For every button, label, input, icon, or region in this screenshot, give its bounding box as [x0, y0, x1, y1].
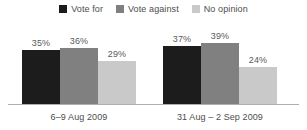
bar-group1-no-opinion	[98, 61, 136, 104]
bar-group2-no-opinion	[239, 67, 277, 104]
grouped-bar-chart: Vote for Vote against No opinion 35% 36%…	[0, 0, 307, 130]
bar-group2-vote-against	[201, 43, 239, 104]
axis-baseline	[8, 104, 299, 105]
bar-group1-vote-for	[22, 50, 60, 104]
bar-value-group1-no-opinion: 29%	[98, 49, 136, 59]
bar-value-group2-vote-against: 39%	[201, 31, 239, 41]
category-label-group2: 31 Aug – 2 Sep 2009	[155, 112, 285, 123]
bar-group1-vote-against	[60, 48, 98, 104]
bar-value-group1-vote-against: 36%	[60, 36, 98, 46]
bar-group2-vote-for	[163, 46, 201, 104]
plot-area: 35% 36% 29% 37% 39% 24% 6–9 Aug 2009 31 …	[0, 0, 307, 130]
bar-value-group1-vote-for: 35%	[22, 38, 60, 48]
bar-value-group2-no-opinion: 24%	[239, 55, 277, 65]
bar-value-group2-vote-for: 37%	[163, 34, 201, 44]
category-label-group1: 6–9 Aug 2009	[14, 112, 144, 123]
